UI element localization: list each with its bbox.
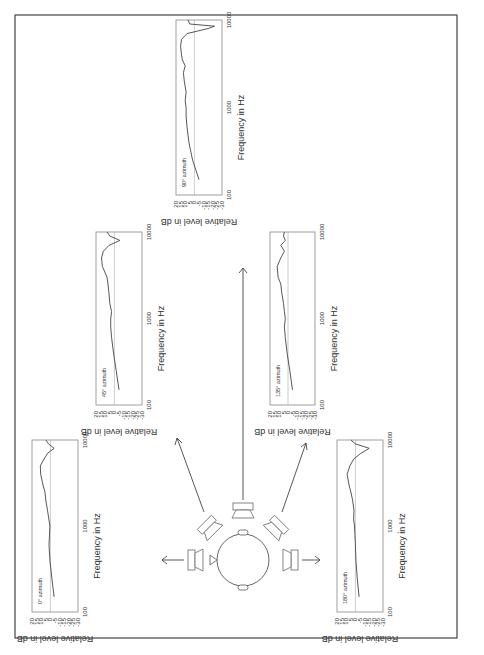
y-tick-label: -30 (219, 200, 225, 209)
chart-az90: 20151050-5-10-15-20-25-30100100010000Fre… (161, 11, 246, 227)
azimuth-label: 180° azimuth (342, 572, 348, 604)
arrow-icon (302, 556, 320, 564)
arrow-icon (239, 268, 247, 500)
arrow-icon (175, 438, 204, 512)
speaker-90-icon (232, 503, 254, 518)
x-tick-label: 10000 (387, 431, 393, 448)
speaker-180-icon (283, 549, 298, 571)
azimuth-label: 90° azimuth (181, 158, 187, 187)
chart-az45: 20151050-5-10-15-20-25-30100100010000Fre… (81, 223, 166, 437)
y-tick-label: -30 (380, 617, 386, 626)
chart-az180: 20151050-5-10-15-20-25-30100100010000Fre… (322, 431, 407, 644)
speaker-135-icon (263, 515, 289, 541)
ear-icon (238, 585, 248, 590)
ear-icon (238, 530, 248, 535)
x-tick-label: 1000 (146, 311, 152, 325)
x-tick-label: 10000 (146, 223, 152, 240)
nose-icon (210, 555, 217, 565)
head-icon (217, 534, 269, 586)
speaker-0-icon (188, 549, 203, 571)
x-tick-label: 100 (226, 189, 232, 200)
chart-az0: 20151050-5-10-15-20-25-30100100010000Fre… (17, 431, 102, 644)
arrow-icon (162, 556, 184, 564)
x-tick-label: 100 (146, 399, 152, 410)
y-tick-label: -30 (139, 410, 145, 419)
y-axis-label: Relative level in dB (81, 427, 158, 437)
y-axis-label: Relative level in dB (322, 634, 399, 644)
x-tick-label: 100 (319, 399, 325, 410)
x-axis-label: Frequency in Hz (156, 305, 166, 371)
y-tick-label: -30 (312, 410, 318, 419)
figure: 20151050-5-10-15-20-25-30100100010000Fre… (0, 0, 484, 655)
y-axis-label: Relative level in dB (161, 217, 238, 227)
x-axis-label: Frequency in Hz (92, 513, 102, 579)
x-tick-label: 1000 (387, 519, 393, 533)
x-tick-label: 100 (387, 606, 393, 617)
y-axis-label: Relative level in dB (254, 427, 331, 437)
chart-az135: 20151050-5-10-15-20-25-30100100010000Fre… (254, 223, 339, 437)
azimuth-label: 0° azimuth (37, 578, 43, 604)
arrow-icon (282, 443, 307, 512)
x-axis-label: Frequency in Hz (397, 513, 407, 579)
y-axis-label: Relative level in dB (17, 634, 94, 644)
x-tick-label: 1000 (226, 100, 232, 114)
x-tick-label: 10000 (226, 11, 232, 28)
x-axis-label: Frequency in Hz (236, 94, 246, 160)
azimuth-label: 45° azimuth (101, 368, 107, 397)
azimuth-label: 135° azimuth (275, 365, 281, 397)
x-tick-label: 1000 (82, 519, 88, 533)
x-tick-label: 10000 (319, 223, 325, 240)
y-tick-label: -30 (75, 617, 81, 626)
x-tick-label: 100 (82, 606, 88, 617)
speaker-45-icon (197, 515, 223, 541)
x-tick-label: 1000 (319, 311, 325, 325)
x-axis-label: Frequency in Hz (329, 305, 339, 371)
